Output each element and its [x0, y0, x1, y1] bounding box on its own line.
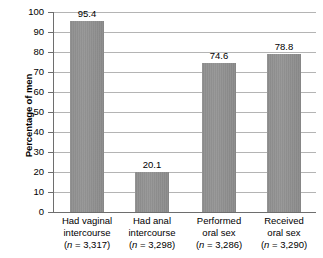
x-axis-category-labels: Had vaginalintercourse(n = 3,317)Had ana…	[53, 215, 316, 258]
y-axis-tick	[48, 112, 53, 113]
y-axis-tick	[48, 92, 53, 93]
x-axis-category-label: Receivedoral sex(n = 3,290)	[244, 215, 323, 250]
y-axis-tick-labels: 1009080706050403020100	[14, 0, 44, 258]
y-axis-tick-label: 90	[16, 27, 44, 37]
y-axis-tick	[48, 212, 53, 213]
bar	[267, 54, 301, 212]
y-axis-tick-label: 100	[16, 7, 44, 17]
y-axis-tick-label: 80	[16, 47, 44, 57]
category-label-line: Received	[244, 215, 323, 227]
y-axis-tick	[48, 172, 53, 173]
y-axis-tick-label: 40	[16, 127, 44, 137]
bar-value-label: 20.1	[122, 160, 182, 170]
y-axis-tick	[48, 192, 53, 193]
y-axis-tick-label: 60	[16, 87, 44, 97]
y-axis-tick	[48, 152, 53, 153]
y-axis-tick-label: 10	[16, 187, 44, 197]
y-axis-tick-label: 20	[16, 167, 44, 177]
bar-chart: Percentage of men 1009080706050403020100…	[0, 0, 323, 258]
category-label-line: oral sex	[244, 227, 323, 239]
y-axis-tick-label: 30	[16, 147, 44, 157]
y-axis-tick	[48, 12, 53, 13]
sample-size-label: (n = 3,290)	[244, 239, 323, 251]
y-axis-tick	[48, 132, 53, 133]
bar	[135, 172, 169, 212]
y-axis-tick-label: 50	[16, 107, 44, 117]
y-axis-tick-label: 0	[16, 207, 44, 217]
bar	[70, 21, 104, 212]
y-axis-tick	[48, 52, 53, 53]
y-axis-tick-label: 70	[16, 67, 44, 77]
bar-value-label: 78.8	[254, 42, 314, 52]
bars-group: 95.420.174.678.8	[53, 12, 316, 212]
y-axis-tick	[48, 72, 53, 73]
y-axis-tick	[48, 32, 53, 33]
bar-value-label: 95.4	[57, 9, 117, 19]
bar	[202, 63, 236, 212]
x-axis-baseline	[53, 212, 316, 213]
bar-value-label: 74.6	[189, 51, 249, 61]
